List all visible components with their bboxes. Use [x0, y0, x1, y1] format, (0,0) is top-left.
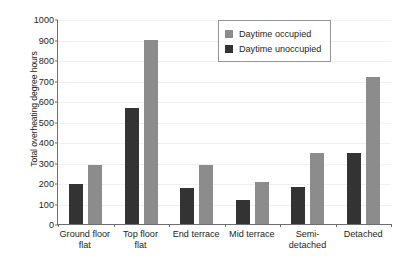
bar [255, 182, 269, 224]
bar [199, 165, 213, 224]
legend-swatch-icon [225, 30, 233, 38]
y-axis-tick-label: 100 [39, 200, 54, 210]
bar [144, 40, 158, 225]
bar [347, 153, 361, 224]
bar [236, 200, 250, 224]
x-axis-labels: Ground floorflatTop floorflatEnd terrace… [57, 229, 391, 251]
legend-label: Daytime occupied [239, 29, 311, 39]
x-axis-tick-label: Mid terrace [224, 229, 280, 251]
y-axis-title: Total overheating degree hours [29, 9, 39, 209]
legend-label: Daytime unoccupied [239, 44, 321, 54]
y-axis-tick-label: 400 [39, 138, 54, 148]
bar-group [169, 20, 225, 224]
bar [291, 187, 305, 224]
bar [366, 77, 380, 224]
y-axis-tick-label: 200 [39, 179, 54, 189]
y-axis-tick-label: 1000 [34, 15, 54, 25]
y-axis-tick-label: 800 [39, 56, 54, 66]
x-axis-tick-label: Detached [335, 229, 391, 251]
x-axis-tickmark [58, 224, 59, 227]
y-axis-tick-label: 600 [39, 97, 54, 107]
x-axis-tick-label: Top floorflat [113, 229, 169, 251]
bar [69, 184, 83, 224]
bar [180, 188, 194, 224]
y-axis-tick-label: 0 [49, 220, 54, 230]
y-axis-tick-label: 900 [39, 36, 54, 46]
y-axis-tick-label: 500 [39, 118, 54, 128]
chart-legend: Daytime occupiedDaytime unoccupied [218, 20, 331, 62]
x-axis-tickmark [225, 224, 226, 227]
x-axis-tick-label: Semi-detached [280, 229, 336, 251]
bar [310, 153, 324, 224]
x-axis-tickmark [169, 224, 170, 227]
bar [125, 108, 139, 224]
bar-chart-figure: Total overheating degree hours 100090080… [0, 0, 399, 272]
x-axis-tickmark [114, 224, 115, 227]
bar-group [58, 20, 114, 224]
legend-entry: Daytime unoccupied [225, 41, 321, 56]
legend-entry: Daytime occupied [225, 26, 321, 41]
x-axis-tick-label: End terrace [168, 229, 224, 251]
legend-swatch-icon [225, 45, 233, 53]
x-axis-tickmark [280, 224, 281, 227]
x-axis-tick-label: Ground floorflat [57, 229, 113, 251]
bar [88, 165, 102, 224]
bar-group [336, 20, 392, 224]
x-axis-tickmark [391, 224, 392, 227]
y-axis-tick-label: 700 [39, 77, 54, 87]
y-axis-tick-label: 300 [39, 159, 54, 169]
bar-group [114, 20, 170, 224]
x-axis-tickmark [336, 224, 337, 227]
